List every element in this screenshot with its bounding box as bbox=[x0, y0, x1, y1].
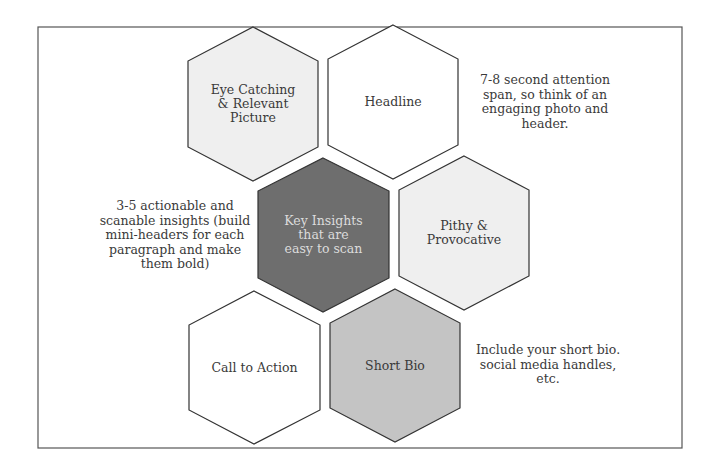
note-short-bio: Include your short bio. social media han… bbox=[468, 343, 628, 387]
note-attention-span: 7-8 second attention span, so think of a… bbox=[470, 73, 620, 131]
diagram-canvas: Eye Catching & Relevant Picture Headline… bbox=[0, 0, 722, 472]
note-key-insights: 3-5 actionable and scanable insights (bu… bbox=[90, 199, 260, 272]
